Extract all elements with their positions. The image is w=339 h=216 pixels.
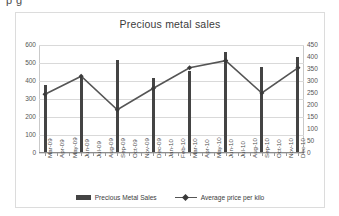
right-axis-tick-label: 50 [307,138,329,145]
legend-item-line: Average price per kilo [175,194,265,201]
left-axis-tick-label: 100 [14,132,36,139]
category-label: Jul-10 [240,141,246,158]
left-axis-tick-label: 0 [14,150,36,157]
left-axis-tick-label: 200 [14,114,36,121]
right-axis-tick-label: 350 [307,66,329,73]
chart-title: Precious metal sales [16,18,324,30]
left-axis-tick-label: 300 [14,96,36,103]
category-label: Mar-09 [47,138,53,158]
left-axis-tick-label: 400 [14,78,36,85]
legend-label-bars: Precious Metal Sales [95,194,157,201]
left-axis-tick-label: 600 [14,42,36,49]
category-label: Sep-09 [120,138,126,158]
category-label: Jul-09 [96,141,102,158]
right-axis-tick-label: 100 [307,126,329,133]
plot-area: 0100200300400500600 05010015020025030035… [39,45,304,153]
cropped-header-text: p g [0,0,339,11]
left-axis-tick-label: 500 [14,60,36,67]
category-label: May-09 [72,137,78,158]
right-axis-tick-label: 200 [307,102,329,109]
category-label: Nov-10 [288,138,294,158]
right-axis-tick-label: 250 [307,90,329,97]
category-tick [69,153,70,156]
category-label: Aug-10 [252,138,258,158]
right-axis-tick-label: 0 [307,150,329,157]
right-axis-tick-label: 150 [307,114,329,121]
category-label: Apr-10 [204,139,210,158]
category-label: Mar-10 [192,138,198,158]
average-price-line [45,61,298,110]
category-label: Oct-09 [132,139,138,158]
category-label: Dec-09 [156,138,162,158]
category-label: Jun-10 [228,139,234,158]
category-label: Oct-10 [276,139,282,158]
right-axis-tick-label: 300 [307,78,329,85]
category-label: Jun-09 [84,139,90,158]
category-label: May-10 [216,137,222,158]
category-tick [81,153,82,156]
category-label: Feb-10 [180,138,186,158]
chart-container: Precious metal sales 0100200300400500600… [15,12,325,208]
right-axis-tick-label: 450 [307,42,329,49]
legend-label-line: Average price per kilo [201,194,265,201]
category-label: Apr-09 [59,139,65,158]
line-series [39,45,304,153]
line-swatch-icon [175,195,197,201]
category-label: Nov-09 [144,138,150,158]
category-label: Aug-09 [108,138,114,158]
chart-legend: Precious Metal Sales Average price per k… [16,194,324,201]
category-label: Sep-10 [264,138,270,158]
legend-item-bars: Precious Metal Sales [76,194,157,201]
category-label: Dec-10 [300,138,306,158]
category-label: Jan-10 [168,139,174,158]
line-markers [42,58,300,112]
bar-swatch-icon [76,195,91,200]
right-axis-tick-label: 400 [307,54,329,61]
